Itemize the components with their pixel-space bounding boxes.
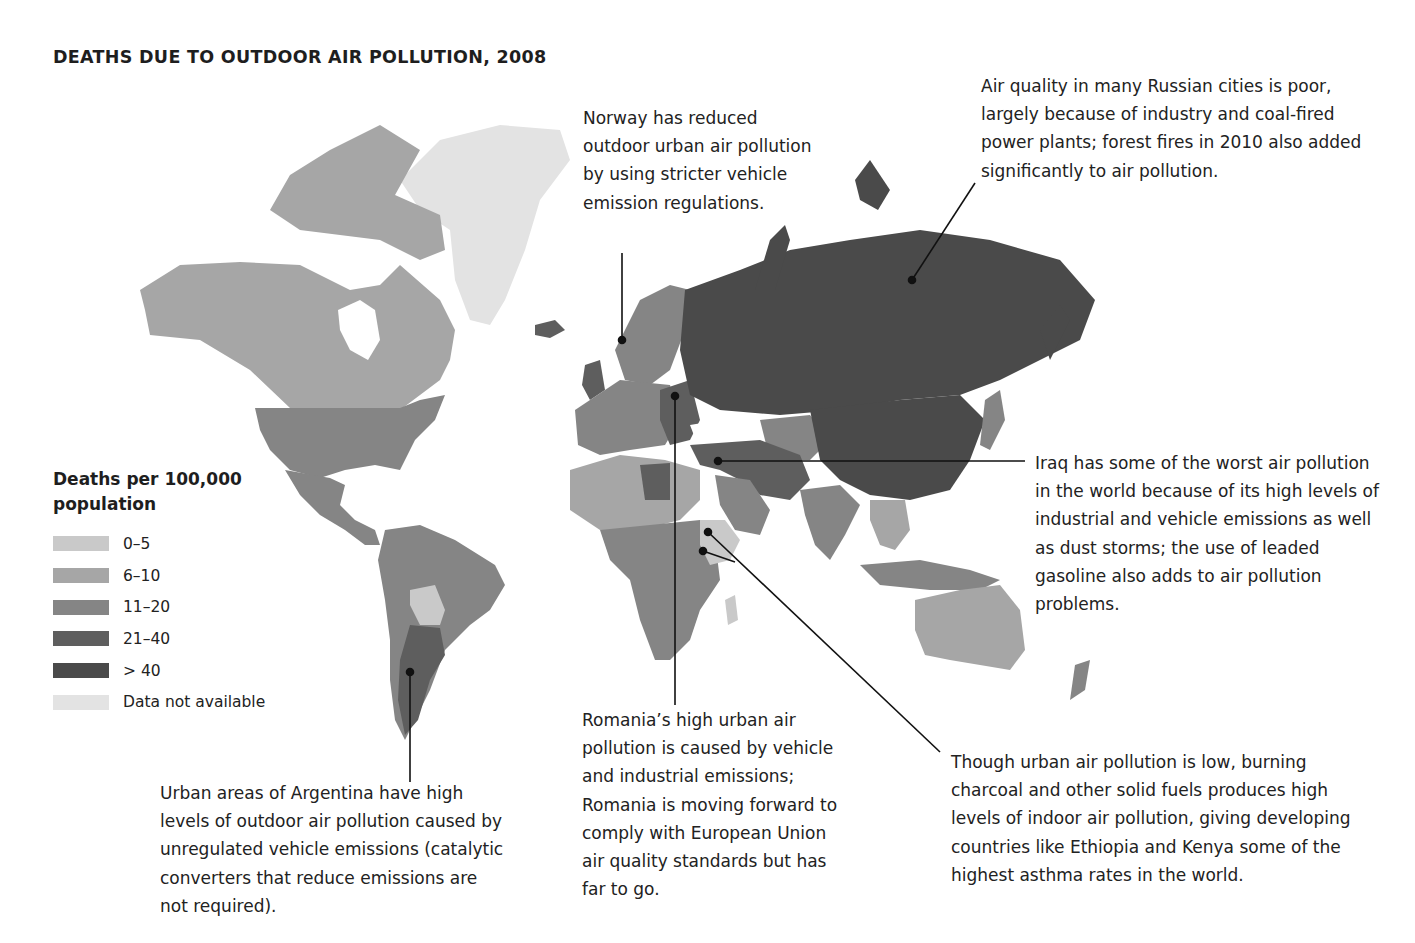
region-se-asia: [870, 500, 910, 550]
region-australia: [915, 585, 1025, 670]
annotation-romania: Romania’s high urban air pollution is ca…: [582, 706, 847, 903]
annotation-ethiopia-kenya: Though urban air pollution is low, burni…: [951, 748, 1381, 889]
region-canada-alaska: [140, 262, 455, 410]
region-south-america: [378, 525, 505, 740]
legend-item: Data not available: [53, 686, 265, 718]
region-russia: [680, 230, 1095, 415]
region-svalbard: [855, 160, 890, 210]
legend-item: 21–40: [53, 623, 265, 655]
legend-swatch: [53, 695, 109, 710]
legend-swatch: [53, 600, 109, 615]
legend-title: Deaths per 100,000 population: [53, 467, 253, 517]
legend-item: 0–5: [53, 528, 265, 560]
region-mexico: [285, 470, 380, 545]
region-japan: [980, 390, 1005, 450]
legend-label: 11–20: [123, 598, 170, 616]
legend-label: 0–5: [123, 535, 150, 553]
legend-label: > 40: [123, 662, 161, 680]
legend-swatch: [53, 631, 109, 646]
region-iceland: [535, 320, 565, 338]
region-scandinavia: [615, 285, 690, 385]
region-new-zealand: [1070, 660, 1090, 700]
region-libya: [640, 463, 670, 500]
legend-swatch: [53, 536, 109, 551]
region-india: [800, 485, 860, 560]
region-china: [810, 395, 985, 500]
legend-item: > 40: [53, 655, 265, 687]
region-indonesia: [860, 560, 1000, 590]
annotation-argentina: Urban areas of Argentina have high level…: [160, 779, 510, 920]
legend-label: 6–10: [123, 567, 160, 585]
annotation-iraq: Iraq has some of the worst air pollution…: [1035, 449, 1380, 618]
legend: Deaths per 100,000 population 0–5 6–10 1…: [53, 467, 265, 718]
region-north-africa: [570, 455, 700, 530]
region-madagascar: [725, 595, 738, 625]
legend-label: Data not available: [123, 693, 265, 711]
legend-item: 11–20: [53, 591, 265, 623]
annotation-russia: Air quality in many Russian cities is po…: [981, 72, 1381, 185]
legend-label: 21–40: [123, 630, 170, 648]
annotation-norway: Norway has reduced outdoor urban air pol…: [583, 104, 813, 217]
legend-swatch: [53, 568, 109, 583]
legend-swatch: [53, 663, 109, 678]
legend-item: 6–10: [53, 560, 265, 592]
